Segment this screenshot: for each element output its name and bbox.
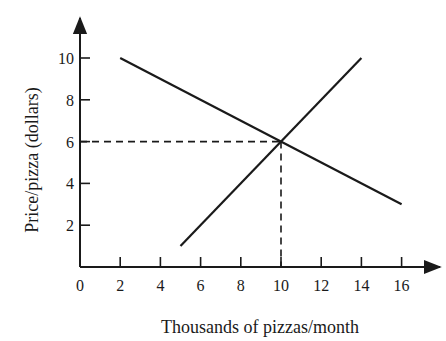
- x-tick-label: 2: [116, 277, 124, 294]
- equilibrium-guides: [80, 142, 281, 267]
- y-tick-label: 2: [66, 217, 74, 234]
- axes: [80, 18, 440, 267]
- demand-line: [120, 58, 401, 204]
- x-tick-label: 10: [273, 277, 289, 294]
- series-lines: [120, 58, 401, 246]
- x-tick-label: 4: [156, 277, 164, 294]
- y-axis-title: Price/pizza (dollars): [22, 87, 43, 232]
- y-tick-label: 6: [66, 134, 74, 151]
- x-tick-label: 14: [353, 277, 369, 294]
- x-tick-label: 8: [237, 277, 245, 294]
- tick-labels: 0246810121416246810: [58, 50, 410, 294]
- supply-demand-chart: 0246810121416246810 Thousands of pizzas/…: [0, 0, 446, 341]
- x-tick-label: 12: [313, 277, 329, 294]
- x-axis-title: Thousands of pizzas/month: [161, 317, 359, 337]
- y-tick-label: 4: [66, 175, 74, 192]
- x-tick-label: 16: [394, 277, 410, 294]
- supply-line: [181, 58, 362, 246]
- y-tick-label: 8: [66, 92, 74, 109]
- y-tick-label: 10: [58, 50, 74, 67]
- x-tick-label: 0: [76, 277, 84, 294]
- x-tick-label: 6: [197, 277, 205, 294]
